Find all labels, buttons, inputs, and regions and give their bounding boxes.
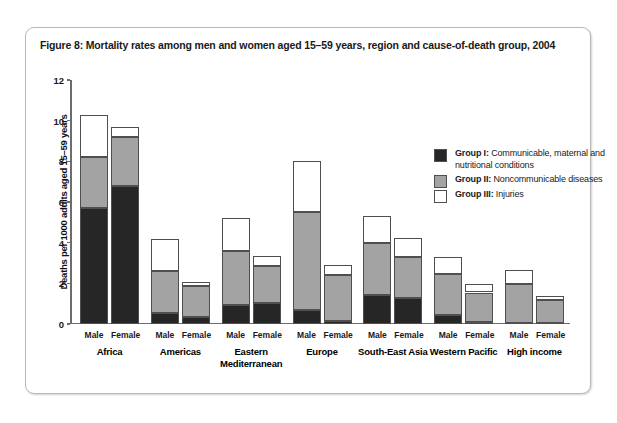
legend-item: Group III: Injuries [434, 189, 617, 201]
bar-group: MaleFemaleEurope [293, 80, 352, 324]
x-tick-label-sex: Male [434, 330, 462, 340]
bar-segment-g3[interactable] [324, 265, 352, 275]
stacked-bar[interactable] [536, 296, 564, 324]
bar-segment-g1[interactable] [394, 298, 422, 324]
y-tick-mark [67, 201, 71, 202]
bar-segment-g2[interactable] [111, 137, 139, 186]
y-tick-mark [67, 79, 71, 80]
legend-item-name: Group I: [455, 148, 489, 158]
bar-segment-g1[interactable] [363, 295, 391, 324]
bar-segment-g1[interactable] [151, 313, 179, 324]
legend-item-name: Group II: [455, 174, 491, 184]
y-axis-line [70, 80, 72, 324]
bar-segment-g1[interactable] [111, 186, 139, 324]
y-tick-mark [67, 283, 71, 284]
y-tick-mark [67, 323, 71, 324]
figure-frame: Figure 8: Mortality rates among men and … [25, 27, 591, 394]
bar-segment-g2[interactable] [324, 275, 352, 321]
stacked-bar[interactable] [151, 239, 179, 324]
stacked-bar[interactable] [111, 127, 139, 324]
x-tick-label-sex: Female [253, 330, 281, 340]
legend-swatch-icon [434, 149, 447, 162]
stacked-bar[interactable] [505, 270, 533, 324]
bar-segment-g3[interactable] [394, 238, 422, 257]
x-tick-label-sex: Female [324, 330, 352, 340]
stacked-bar[interactable] [434, 257, 462, 324]
bar-group: MaleFemaleEastern Mediterranean [222, 80, 281, 324]
bar-segment-g2[interactable] [394, 257, 422, 298]
bar-segment-g3[interactable] [80, 115, 108, 158]
stacked-bar[interactable] [324, 265, 352, 324]
legend: Group I: Communicable, maternal and nutr… [434, 148, 617, 203]
bar-segment-g3[interactable] [111, 127, 139, 137]
y-tick-mark [67, 120, 71, 121]
x-tick-label-sex: Female [111, 330, 139, 340]
stacked-bar[interactable] [222, 218, 250, 324]
bar-segment-g1[interactable] [434, 315, 462, 324]
legend-item-description: Noncommunicable diseases [491, 174, 602, 184]
stacked-bar[interactable] [394, 238, 422, 324]
x-axis-group-label: South-East Asia [355, 346, 430, 358]
bar-segment-g3[interactable] [222, 218, 250, 251]
bar-segment-g2[interactable] [253, 266, 281, 303]
legend-swatch-icon [434, 175, 447, 188]
bar-segment-g1[interactable] [182, 317, 210, 324]
bar-segment-g3[interactable] [465, 284, 493, 292]
bar-segment-g1[interactable] [222, 305, 250, 324]
bar-segment-g3[interactable] [253, 256, 281, 266]
bar-group: MaleFemaleAmericas [151, 80, 210, 324]
bar-segment-g1[interactable] [253, 303, 281, 324]
x-tick-label-sex: Female [465, 330, 493, 340]
stacked-bar[interactable] [293, 161, 321, 324]
bar-segment-g3[interactable] [293, 161, 321, 212]
y-tick-label: 12 [53, 75, 64, 86]
y-tick-mark [67, 242, 71, 243]
x-axis-group-label: Eastern Mediterranean [214, 346, 289, 369]
bar-segment-g2[interactable] [505, 284, 533, 323]
figure-title: Figure 8: Mortality rates among men and … [40, 39, 580, 51]
legend-item: Group I: Communicable, maternal and nutr… [434, 148, 617, 171]
bar-segment-g1[interactable] [80, 208, 108, 324]
bar-segment-g2[interactable] [536, 300, 564, 323]
x-axis-group-label: Europe [285, 346, 360, 358]
bar-segment-g3[interactable] [151, 239, 179, 272]
bar-segment-g2[interactable] [151, 271, 179, 313]
bar-segment-g2[interactable] [363, 243, 391, 295]
stacked-bar[interactable] [80, 115, 108, 324]
y-tick-mark [67, 161, 71, 162]
bar-segment-g2[interactable] [465, 293, 493, 322]
x-tick-label-sex: Male [363, 330, 391, 340]
x-axis-group-label: Americas [143, 346, 218, 358]
x-tick-label-sex: Female [182, 330, 210, 340]
stacked-bar[interactable] [465, 284, 493, 324]
x-tick-label-sex: Female [536, 330, 564, 340]
x-tick-label-sex: Male [293, 330, 321, 340]
bar-segment-g2[interactable] [182, 286, 210, 317]
bar-segment-g3[interactable] [363, 216, 391, 242]
bar-segment-g2[interactable] [222, 251, 250, 305]
stacked-bar[interactable] [253, 256, 281, 324]
x-tick-label-sex: Female [394, 330, 422, 340]
bar-segment-g3[interactable] [505, 270, 533, 284]
bar-segment-g1[interactable] [465, 322, 493, 324]
x-tick-label-sex: Male [222, 330, 250, 340]
bar-segment-g3[interactable] [182, 282, 210, 286]
bar-segment-g2[interactable] [293, 212, 321, 310]
bar-group: MaleFemaleAfrica [80, 80, 139, 324]
legend-item-name: Group III: [455, 189, 494, 199]
bar-segment-g3[interactable] [434, 257, 462, 274]
y-tick-label: 6 [59, 197, 64, 208]
bar-segment-g2[interactable] [80, 157, 108, 208]
legend-swatch-icon [434, 190, 447, 203]
stacked-bar[interactable] [363, 216, 391, 324]
x-axis-group-label: Western Pacific [426, 346, 501, 358]
bar-segment-g2[interactable] [434, 274, 462, 315]
x-axis-group-label: High income [497, 346, 572, 358]
x-axis-group-label: Africa [72, 346, 147, 358]
y-tick-label: 8 [59, 156, 64, 167]
stacked-bar[interactable] [182, 282, 210, 324]
legend-item-description: Injuries [494, 189, 524, 199]
bar-segment-g1[interactable] [293, 310, 321, 324]
bar-segment-g3[interactable] [536, 296, 564, 300]
bar-segment-g1[interactable] [324, 321, 352, 324]
